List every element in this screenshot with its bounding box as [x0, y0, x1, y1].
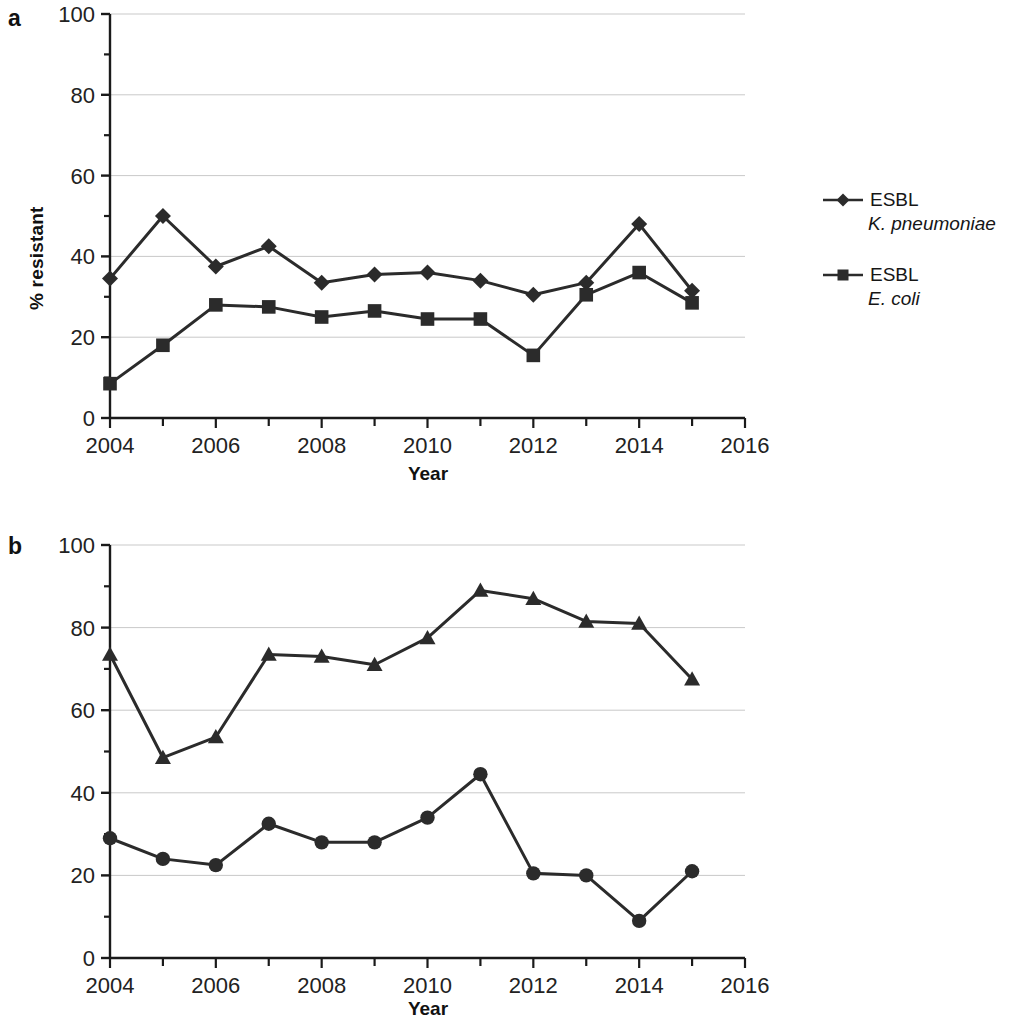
y-axis-tick-label: 80 — [71, 616, 95, 641]
data-point-diamond — [472, 273, 488, 289]
diamond-marker-icon — [822, 192, 864, 208]
panel-a-legend: ESBL K. pneumoniae ESBL E. coli — [822, 188, 996, 337]
x-axis-tick-label: 2012 — [509, 973, 558, 998]
legend-species-label: K. pneumoniae — [868, 212, 996, 236]
panel-b: b % resistant 02040608010020042006200820… — [0, 530, 1010, 1035]
x-axis-tick-label: 2010 — [403, 973, 452, 998]
series-line — [110, 774, 692, 921]
data-point-square — [209, 298, 223, 312]
y-axis-tick-label: 100 — [58, 533, 95, 558]
data-point-diamond — [367, 267, 383, 283]
data-point-square — [527, 349, 541, 363]
data-point-diamond — [420, 265, 436, 281]
y-axis-tick-label: 60 — [71, 698, 95, 723]
x-axis-tick-label: 2004 — [86, 973, 135, 998]
y-axis-tick-label: 0 — [83, 406, 95, 431]
x-axis-tick-label: 2006 — [191, 433, 240, 458]
y-axis-tick-label: 40 — [71, 781, 95, 806]
data-point-circle — [209, 858, 223, 872]
data-point-circle — [103, 831, 117, 845]
data-point-square — [103, 377, 117, 391]
data-point-circle — [314, 835, 328, 849]
figure-container: a % resistant 02040608010020042006200820… — [0, 0, 1010, 1035]
data-point-circle — [473, 767, 487, 781]
x-axis-tick-label: 2006 — [191, 973, 240, 998]
data-point-square — [474, 312, 488, 326]
panel-a-x-axis-label: Year — [368, 463, 488, 485]
y-axis-tick-label: 100 — [58, 2, 95, 27]
x-axis-tick-label: 2004 — [86, 433, 135, 458]
y-axis-tick-label: 0 — [83, 946, 95, 971]
data-point-square — [156, 338, 170, 352]
data-point-circle — [262, 817, 276, 831]
legend-entry: ESBL E. coli — [822, 263, 996, 312]
data-point-circle — [367, 835, 381, 849]
y-axis-tick-label: 60 — [71, 164, 95, 189]
panel-a-plot: 0204060801002004200620082010201220142016 — [0, 0, 810, 500]
legend-label: ESBL — [870, 263, 919, 287]
data-point-square — [579, 288, 593, 302]
square-marker-icon — [822, 267, 864, 283]
x-axis-tick-label: 2012 — [509, 433, 558, 458]
data-point-square — [421, 312, 435, 326]
panel-a: a % resistant 02040608010020042006200820… — [0, 0, 1010, 500]
x-axis-tick-label: 2014 — [615, 973, 664, 998]
data-point-triangle — [102, 646, 118, 660]
data-point-circle — [420, 810, 434, 824]
data-point-square — [315, 310, 329, 324]
data-point-square — [685, 296, 699, 310]
x-axis-tick-label: 2016 — [721, 973, 770, 998]
data-point-square — [632, 266, 646, 280]
legend-label: ESBL — [870, 188, 919, 212]
legend-entry: ESBL K. pneumoniae — [822, 188, 996, 237]
y-axis-tick-label: 80 — [71, 83, 95, 108]
x-axis-tick-label: 2010 — [403, 433, 452, 458]
x-axis-tick-label: 2008 — [297, 433, 346, 458]
x-axis-tick-label: 2014 — [615, 433, 664, 458]
data-point-triangle — [472, 582, 488, 596]
data-point-circle — [526, 866, 540, 880]
series-line — [110, 273, 692, 384]
series-line — [110, 216, 692, 295]
x-axis-tick-label: 2008 — [297, 973, 346, 998]
data-point-circle — [579, 868, 593, 882]
y-axis-tick-label: 20 — [71, 325, 95, 350]
y-axis-tick-label: 40 — [71, 244, 95, 269]
panel-b-x-axis-label: Year — [368, 998, 488, 1020]
data-point-circle — [685, 864, 699, 878]
data-point-triangle — [208, 729, 224, 743]
data-point-square — [368, 304, 382, 318]
panel-b-plot: 0204060801002004200620082010201220142016 — [0, 530, 810, 1035]
data-point-circle — [632, 914, 646, 928]
data-point-square — [262, 300, 276, 314]
data-point-circle — [156, 852, 170, 866]
data-point-diamond — [525, 287, 541, 303]
y-axis-tick-label: 20 — [71, 863, 95, 888]
x-axis-tick-label: 2016 — [721, 433, 770, 458]
legend-species-label: E. coli — [868, 287, 996, 311]
series-line — [110, 590, 692, 757]
